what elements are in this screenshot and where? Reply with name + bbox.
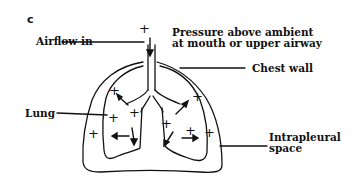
plus-sign-pleural-right-top: + — [192, 90, 203, 103]
plus-sign-pleural-left: + — [88, 127, 99, 140]
panel-letter: c — [27, 13, 34, 26]
plus-sign-pleural-right: + — [204, 126, 215, 139]
intrapleural-label-line2: space — [269, 143, 302, 154]
pressure-label-line2: at mouth or upper airway — [172, 38, 322, 49]
chest-wall-label: Chest wall — [252, 63, 313, 74]
lung-label: Lung — [25, 108, 55, 119]
right-bronchus — [155, 90, 180, 104]
lung-pressure-diagram: c Airflow in Pressure above ambient at m… — [0, 0, 358, 189]
lung-leader-line — [57, 113, 107, 115]
plus-sign-lung-right-1: + — [161, 117, 172, 130]
left-bronchus — [126, 90, 148, 104]
right-lung-outline — [160, 66, 207, 160]
plus-sign-pleural-left-top: + — [109, 84, 120, 97]
plus-sign-mouth: + — [139, 22, 150, 35]
airflow-in-label: Airflow in — [36, 36, 93, 47]
right-bronchus-lower — [153, 96, 163, 112]
left-bronchus-lower — [141, 96, 150, 112]
plus-sign-lung-left-1: + — [108, 111, 119, 124]
plus-sign-lung-right-2: + — [185, 124, 196, 137]
plus-sign-lung-left-2: + — [129, 106, 140, 119]
